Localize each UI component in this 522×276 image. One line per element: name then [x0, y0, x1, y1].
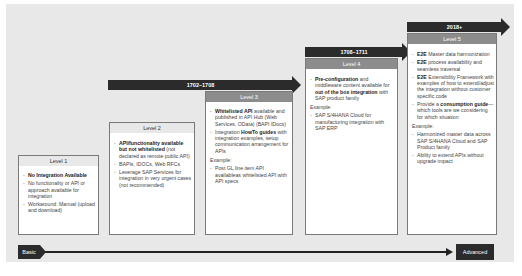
bullet: Workaround: Manual (upload and download) — [23, 201, 96, 214]
example-item: Ability to extend APIs without upgrade i… — [412, 152, 495, 165]
bullet: Provide a consumption guide—which tools … — [412, 101, 495, 120]
example-item: Harmonized master data across SAP S/4HAN… — [412, 131, 495, 150]
advanced-label-text: Advanced — [463, 249, 487, 255]
integration-maturity-diagram: 1702–1708 1708–1711 2018+ Level 1 No Int… — [0, 0, 522, 276]
bullet-text: Extensibility Framework with examples of… — [417, 74, 494, 99]
bullet: Integration HowTo guides with integratio… — [210, 129, 290, 154]
bullet-text: No functionality or API or approach avai… — [28, 180, 85, 199]
bullet: E2E Master data harmonization — [412, 51, 495, 57]
release-bar-label: 1708–1711 — [340, 49, 367, 55]
basic-label: Basic — [18, 245, 40, 259]
bullet: API/functionality available but not whit… — [114, 140, 192, 159]
level-1-content: No Integration Available No functionalit… — [23, 172, 96, 216]
bullet-text: Integration — [215, 129, 241, 135]
release-bar-1702-1708: 1702–1708 — [108, 80, 293, 90]
release-bar-1708-1711: 1708–1711 — [305, 47, 403, 57]
bullet-bold: consumption guide — [440, 101, 488, 107]
bullet-bold: E2E — [417, 74, 427, 80]
example-text: Post GL line item API availableas whitel… — [215, 165, 287, 184]
basic-arrow-shape — [40, 245, 46, 259]
example-label: Example: — [210, 157, 290, 163]
bullet: No functionality or API or approach avai… — [23, 180, 96, 199]
bullet: E2E Extensibility Framework with example… — [412, 74, 495, 99]
maturity-axis-line — [24, 251, 448, 253]
bullet: BAPIs, IDOCs, Web RFCs — [114, 161, 192, 167]
level-title: Level 2 — [143, 125, 161, 131]
bullet-bold: out of the box integration — [315, 89, 378, 95]
release-bar-2018: 2018+ — [407, 22, 502, 32]
level-3-content: Whitelisted API available and published … — [210, 108, 290, 186]
level-title: Level 1 — [50, 158, 68, 164]
release-bar-label: 1702–1708 — [187, 82, 215, 88]
level-5-content: E2E Master data harmonization E2E proces… — [412, 51, 495, 167]
basic-label-text: Basic — [22, 249, 35, 255]
bullet-bold: E2E — [417, 51, 427, 57]
bullet: E2E process availability and seamless tr… — [412, 59, 495, 72]
bullet: No Integration Available — [23, 172, 96, 178]
example-text: Ability to extend APIs without upgrade i… — [417, 152, 484, 164]
bullet-text: process availability and seamless traver… — [417, 59, 482, 71]
example-text: SAP S/4HANA Cloud for manufacturing inte… — [315, 112, 384, 131]
bullet-bold: E2E — [417, 59, 427, 65]
arrow-right-icon — [446, 248, 453, 256]
arrow-right-icon — [292, 76, 301, 94]
bullet: Whitelisted API available and published … — [210, 108, 290, 127]
bullet-text: Workaround: Manual (upload and download) — [28, 201, 95, 213]
level-title: Level 3 — [240, 94, 258, 100]
example-label: Example: — [412, 123, 495, 129]
bullet-text: Leverage SAP Services for integration in… — [119, 169, 191, 188]
bullet-bold: HowTo guides — [241, 129, 276, 135]
example-label: Example: — [310, 104, 395, 110]
bullet-text: Master data harmonization — [427, 51, 490, 57]
release-bar-label: 2018+ — [447, 24, 462, 30]
bullet: Leverage SAP Services for integration in… — [114, 169, 192, 188]
example-text: Harmonized master data across SAP S/4HAN… — [417, 131, 491, 150]
level-title: Level 4 — [343, 61, 361, 67]
level-4-content: Pre-configuration and middleware content… — [310, 76, 395, 133]
bullet: Pre-configuration and middleware content… — [310, 76, 395, 101]
bullet-bold: Pre-configuration — [315, 76, 358, 82]
arrow-right-icon — [501, 18, 510, 36]
level-title: Level 5 — [443, 36, 461, 42]
example-item: SAP S/4HANA Cloud for manufacturing inte… — [310, 112, 395, 131]
example-item: Post GL line item API availableas whitel… — [210, 165, 290, 184]
bullet-bold: Whitelisted API — [215, 108, 253, 114]
bullet-text: Provide a — [417, 101, 440, 107]
bullet-text: BAPIs, IDOCs, Web RFCs — [119, 161, 180, 167]
advanced-label: Advanced — [456, 244, 494, 260]
bullet-bold: No Integration Available — [28, 172, 87, 178]
level-2-content: API/functionality available but not whit… — [114, 140, 192, 190]
